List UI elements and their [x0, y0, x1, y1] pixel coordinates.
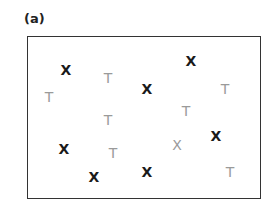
- x-letter-dark: X: [59, 142, 70, 156]
- x-letter-dark: X: [61, 63, 72, 77]
- x-letter-dark: X: [89, 170, 100, 184]
- x-letter-dark: X: [211, 129, 222, 143]
- t-letter-light: T: [104, 113, 113, 127]
- t-letter-light: T: [45, 90, 54, 104]
- t-letter-light: T: [226, 165, 235, 179]
- t-letter-light: T: [221, 82, 230, 96]
- t-letter-light: T: [182, 104, 191, 118]
- x-letter-light: X: [172, 138, 182, 152]
- t-letter-light: T: [104, 71, 113, 85]
- t-letter-light: T: [109, 146, 118, 160]
- x-letter-dark: X: [186, 54, 197, 68]
- x-letter-dark: X: [142, 82, 153, 96]
- panel-label: (a): [24, 12, 45, 25]
- x-letter-dark: X: [142, 165, 153, 179]
